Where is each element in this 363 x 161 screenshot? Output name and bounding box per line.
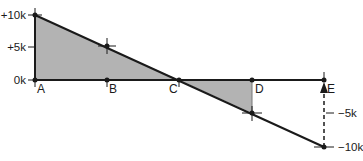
y-label-neg10k: −10k	[338, 141, 363, 153]
label-a: A	[37, 82, 45, 96]
y-label-5k: +5k	[7, 41, 26, 53]
y-label-neg5k: −5k	[338, 107, 357, 119]
point-a-top	[33, 13, 38, 18]
label-b: B	[109, 82, 117, 96]
label-e: E	[327, 82, 335, 96]
point-e	[322, 78, 327, 83]
label-c: C	[169, 82, 178, 96]
point-b-top	[105, 44, 110, 49]
diagram-canvas: +10k +5k 0k −5k −10k A B C D E	[0, 0, 363, 161]
point-d-bottom	[250, 111, 255, 116]
y-label-0k: 0k	[14, 74, 26, 86]
label-d: D	[255, 82, 264, 96]
point-d	[250, 78, 255, 83]
y-label-10k: +10k	[1, 9, 27, 21]
point-e-bottom	[322, 145, 327, 150]
